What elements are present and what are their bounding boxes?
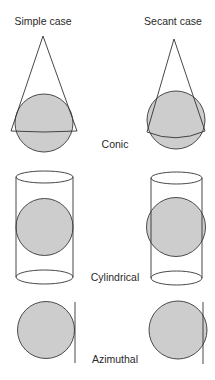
cylinder-top-ellipse [16, 171, 73, 183]
cylindrical-secant-figure [147, 172, 206, 285]
conic-secant-figure [147, 39, 205, 149]
globe-circle [147, 198, 206, 257]
cylinder-bottom-ellipse [16, 270, 73, 284]
cylinder-top-ellipse [151, 172, 202, 184]
globe-circle [16, 199, 73, 256]
cylinder-bottom-ellipse [151, 271, 202, 285]
row-label-azimuthal: Azimuthal [92, 353, 138, 365]
cylindrical-simple-figure [16, 171, 73, 284]
map-projection-diagram: Simple case Secant case Conic Cylindrica… [0, 0, 215, 380]
azimuthal-secant-figure [149, 301, 207, 364]
row-label-cylindrical: Cylindrical [91, 271, 139, 283]
header-secant-case: Secant case [144, 15, 202, 27]
globe-circle [149, 301, 207, 359]
conic-simple-figure [11, 36, 77, 152]
row-label-conic: Conic [102, 138, 129, 150]
globe-circle [15, 94, 73, 152]
header-simple-case: Simple case [14, 15, 71, 27]
globe-circle [147, 91, 205, 149]
azimuthal-simple-figure [18, 302, 76, 364]
globe-circle [18, 302, 75, 359]
